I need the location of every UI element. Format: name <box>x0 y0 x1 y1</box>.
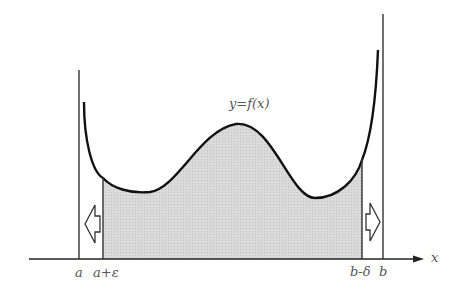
curve-label: y=f(x) <box>229 97 270 110</box>
x-axis-arrowhead <box>413 256 424 263</box>
tick-label-a: a <box>75 266 83 279</box>
tick-label-b-minus-delta: b-δ <box>350 265 371 278</box>
tick-label-a-plus-eps: a+ε <box>93 266 119 279</box>
right-arrow-icon <box>366 203 380 241</box>
x-axis-label: x <box>431 251 438 264</box>
left-arrow-icon <box>85 205 100 243</box>
tick-label-b: b <box>379 265 387 278</box>
